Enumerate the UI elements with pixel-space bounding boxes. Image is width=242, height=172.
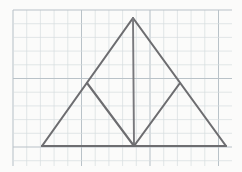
segment-altitude-median — [133, 18, 134, 146]
geometry-figure-svg — [0, 0, 242, 172]
graph-paper-canvas: Isosceles triangle subdivided into four … — [0, 0, 242, 172]
